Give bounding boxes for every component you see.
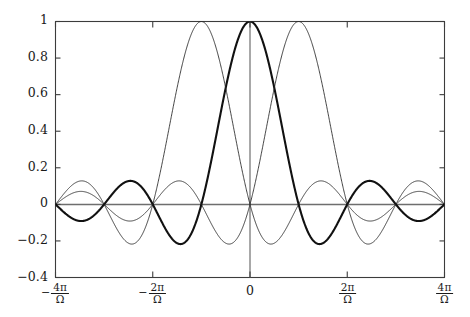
y-tick-label-minus-0-2: −0.2 bbox=[4, 234, 48, 247]
y-tick-label-0: 0 bbox=[4, 197, 48, 210]
y-tick-label-0-2: 0.2 bbox=[4, 161, 48, 174]
x-tick-label-minus-2pi-over-omega: − 2π Ω bbox=[138, 282, 166, 306]
y-tick-label-0-6: 0.6 bbox=[4, 87, 48, 100]
x-tick-label-minus-4pi-over-omega: − 4π Ω bbox=[41, 282, 69, 306]
fraction: 2π Ω bbox=[339, 282, 357, 306]
fraction-denominator: Ω bbox=[149, 294, 167, 306]
y-tick-label-1: 1 bbox=[4, 14, 48, 27]
fraction-denominator: Ω bbox=[51, 294, 69, 306]
fraction: 4π Ω bbox=[51, 282, 69, 306]
fraction-denominator: Ω bbox=[339, 294, 357, 306]
fraction-denominator: Ω bbox=[436, 294, 454, 306]
x-tick-label-4pi-over-omega: 4π Ω bbox=[436, 282, 454, 306]
y-tick-marks bbox=[56, 22, 61, 278]
x-tick-minus-sign: − bbox=[138, 282, 148, 298]
x-tick-marks bbox=[56, 272, 445, 278]
x-tick-minus-sign: − bbox=[41, 282, 51, 298]
fraction: 2π Ω bbox=[149, 282, 167, 306]
plot-canvas bbox=[0, 0, 470, 317]
x-tick-label-zero: 0 bbox=[246, 282, 254, 298]
y-tick-label-0-8: 0.8 bbox=[4, 51, 48, 64]
sinc-functions-chart: 1 0.8 0.6 0.4 0.2 0 −0.2 −0.4 − 4π Ω − 2… bbox=[0, 0, 470, 317]
y-tick-marks-right bbox=[440, 22, 445, 278]
y-tick-label-0-4: 0.4 bbox=[4, 124, 48, 137]
fraction: 4π Ω bbox=[436, 282, 454, 306]
x-tick-label-2pi-over-omega: 2π Ω bbox=[339, 282, 357, 306]
